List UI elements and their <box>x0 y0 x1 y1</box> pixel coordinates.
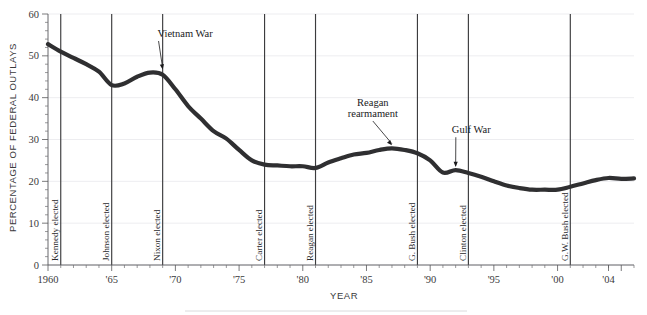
x-tick-label-1965: '65 <box>105 274 117 285</box>
x-tick-label-1980: '80 <box>297 274 309 285</box>
event-label-4: Reagan elected <box>305 205 315 261</box>
y-axis-title: PERCENTAGE OF FEDERAL OUTLAYS <box>7 43 18 232</box>
annotation-line: rearmament <box>348 108 398 119</box>
x-tick-label-1990: '90 <box>424 274 436 285</box>
y-tick-label-20: 20 <box>29 176 40 187</box>
chart-figure: 0102030405060 1960'65'70'75'80'85'90'95'… <box>0 0 647 315</box>
x-tick-label-1970: '70 <box>169 274 181 285</box>
event-label-7: G.W. Bush elected <box>560 192 570 261</box>
event-label-5: G. Bush elected <box>407 202 417 261</box>
chart-background <box>0 0 647 315</box>
x-tick-label-2000: '00 <box>551 274 563 285</box>
y-tick-label-0: 0 <box>34 260 39 271</box>
annotation-line: Reagan <box>357 97 389 108</box>
x-tick-label-1975: '75 <box>233 274 245 285</box>
x-tick-label-1995: '95 <box>488 274 500 285</box>
line-chart: 0102030405060 1960'65'70'75'80'85'90'95'… <box>0 0 647 315</box>
x-tick-label-2004: '04 <box>602 274 615 285</box>
event-label-6: Clinton elected <box>458 205 468 261</box>
x-tick-label-1960: 1960 <box>38 274 59 285</box>
annotation-label-0: Vietnam War <box>158 28 214 39</box>
annotation-line: Gulf War <box>452 124 491 135</box>
y-tick-label-50: 50 <box>29 50 40 61</box>
y-tick-label-60: 60 <box>29 9 40 20</box>
y-tick-label-30: 30 <box>29 134 40 145</box>
event-label-2: Nixon elected <box>152 209 162 261</box>
event-label-1: Johnson elected <box>101 202 111 261</box>
x-axis-title: YEAR <box>330 290 358 301</box>
annotation-label-2: Gulf War <box>452 124 491 135</box>
y-tick-label-10: 10 <box>29 218 40 229</box>
event-label-0: Kennedy elected <box>50 199 60 261</box>
x-tick-label-1985: '85 <box>360 274 372 285</box>
y-tick-label-40: 40 <box>29 92 40 103</box>
event-label-3: Carter elected <box>254 209 264 261</box>
annotation-line: Vietnam War <box>158 28 214 39</box>
